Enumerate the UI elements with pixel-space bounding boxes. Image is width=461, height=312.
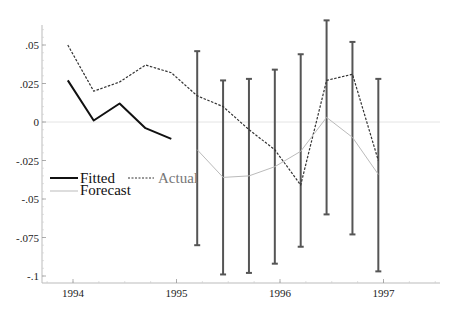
series-forecast-line: [197, 117, 378, 177]
forecast-chart: .05.0250-.025-.05-.075-.1199419951996199…: [0, 0, 461, 312]
series-fitted-line: [68, 80, 172, 138]
y-tick-label: -.1: [27, 270, 39, 282]
y-tick-label: -.05: [22, 193, 40, 205]
legend: Fitted Forecast Actual: [50, 170, 198, 198]
y-tick-label: .05: [25, 39, 39, 51]
y-tick-label: -.075: [16, 232, 39, 244]
x-tick-label: 1996: [269, 287, 292, 299]
x-tick-label: 1997: [373, 287, 396, 299]
x-tick-label: 1995: [166, 287, 189, 299]
x-tick-label: 1994: [62, 287, 85, 299]
error-bars: [194, 20, 381, 274]
y-tick-label: .025: [20, 78, 40, 90]
legend-forecast-label: Forecast: [80, 182, 132, 198]
y-tick-label: 0: [34, 116, 40, 128]
y-tick-label: -.025: [16, 155, 39, 167]
legend-actual-label: Actual: [158, 170, 198, 186]
